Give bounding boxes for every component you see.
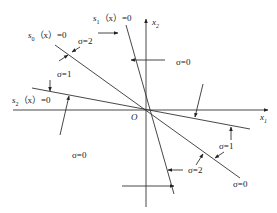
arrow-s0-b bbox=[72, 47, 80, 52]
region-label-sigma1-upper: σ=1 bbox=[57, 70, 71, 79]
arrow-s0-a bbox=[59, 55, 68, 61]
origin-label: O bbox=[131, 113, 138, 122]
region-label-sigma0-lower-left: σ=0 bbox=[72, 151, 86, 160]
s0-surface-label: s0（x）=0 bbox=[28, 31, 67, 42]
arrow-s0-lower-a bbox=[196, 154, 203, 165]
region-label-sigma2-upper: σ=2 bbox=[78, 37, 92, 46]
s1-surface-line bbox=[126, 25, 174, 194]
s2-surface-label: s2（x）=0 bbox=[12, 96, 51, 107]
s2-surface-line bbox=[32, 88, 250, 129]
arrow-s2-up bbox=[60, 96, 69, 135]
s1-surface-label: s1（x）=0 bbox=[93, 14, 132, 25]
region-label-sigma2-lower: σ=2 bbox=[188, 166, 202, 175]
x1-axis-label: x1 bbox=[260, 113, 267, 124]
x2-axis-label: x2 bbox=[152, 18, 159, 29]
region-label-sigma0-lower-right: σ=0 bbox=[233, 180, 247, 189]
arrow-s0-lower-b bbox=[215, 152, 224, 158]
arrow-right-down bbox=[195, 84, 203, 117]
region-label-sigma1-lower: σ=1 bbox=[219, 142, 233, 151]
region-label-sigma0-upper-right: σ=0 bbox=[176, 58, 190, 67]
